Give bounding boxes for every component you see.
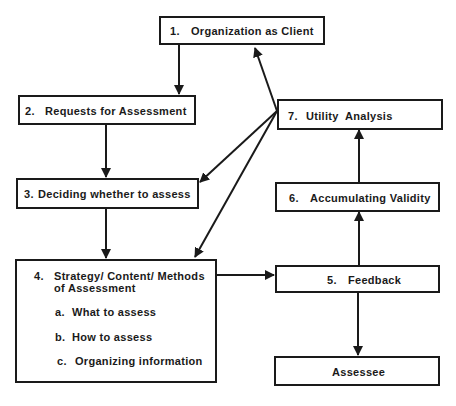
node-label: Organization as Client	[191, 25, 314, 37]
subitem-marker: c.	[57, 355, 67, 367]
node-requests-for-assessment: 2. Requests for Assessment	[18, 95, 196, 125]
node-accumulating-validity: 6. Accumulating Validity	[275, 182, 440, 212]
node-number: 1.	[170, 25, 180, 37]
node-number: 3.	[24, 188, 34, 200]
node-number: 6.	[289, 192, 299, 204]
node-utility-analysis: 7. Utility Analysis	[277, 99, 443, 130]
subitem-label: What to assess	[72, 306, 156, 318]
node-label: Requests for Assessment	[45, 105, 187, 117]
subitem-label: Organizing information	[75, 355, 203, 367]
subitem-marker: a.	[55, 306, 65, 318]
node-number: 2.	[25, 105, 35, 117]
node-number: 5.	[327, 274, 337, 286]
node-label: Deciding whether to assess	[38, 188, 191, 200]
arrow-7-to-1	[255, 48, 277, 111]
node-number: 7.	[288, 110, 298, 122]
subitem-marker: b.	[55, 331, 65, 343]
node-deciding-whether-to-assess: 3. Deciding whether to assess	[16, 178, 199, 209]
node-label: Accumulating Validity	[310, 192, 431, 204]
node-strategy-content-methods: 4. Strategy/ Content/ Methods of Assessm…	[15, 259, 217, 383]
arrow-7-to-3	[200, 111, 277, 182]
node-organization-as-client: 1. Organization as Client	[159, 16, 325, 45]
subitem-label: How to assess	[72, 331, 152, 343]
node-label: Assessee	[332, 366, 385, 378]
node-label: Feedback	[348, 274, 401, 286]
node-assessee: Assessee	[274, 356, 440, 386]
node-feedback: 5. Feedback	[275, 265, 440, 293]
node-label: Utility Analysis	[306, 110, 393, 122]
arrow-7-to-4	[195, 111, 277, 257]
node-label-line2: of Assessment	[54, 282, 136, 294]
node-label-line1: Strategy/ Content/ Methods	[54, 270, 205, 282]
node-number: 4.	[34, 270, 44, 282]
